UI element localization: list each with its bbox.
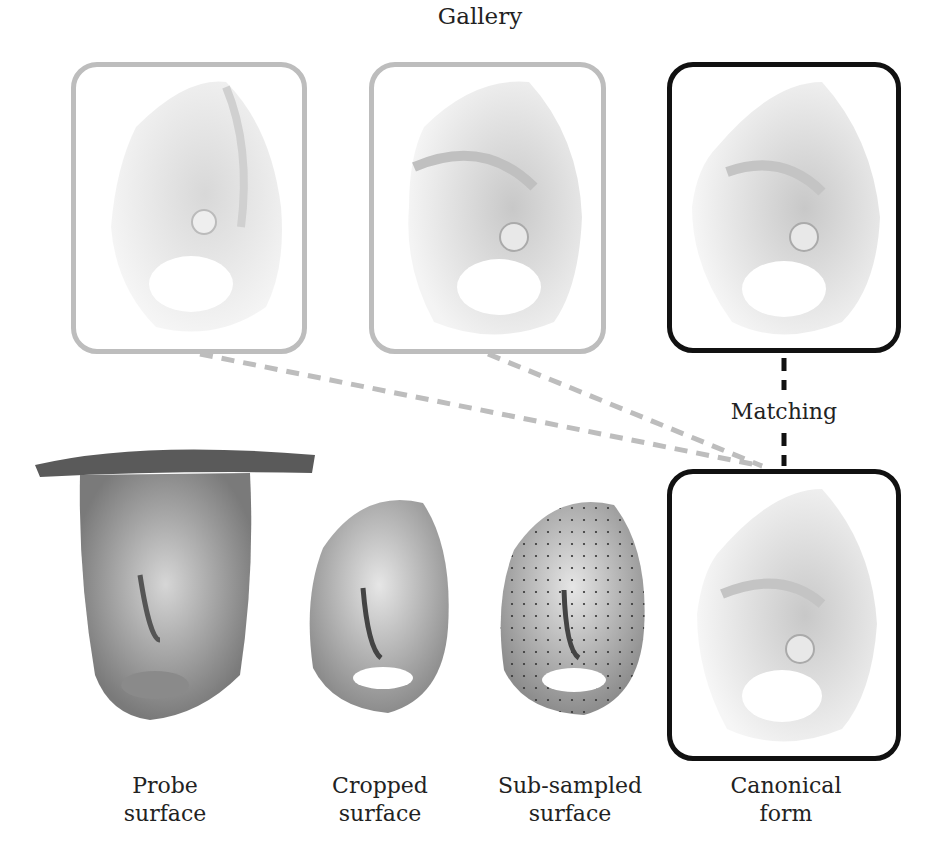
cropped-surface-image (303, 488, 453, 728)
canonical-form-image (672, 474, 896, 756)
probe-surface-label: Probe surface (100, 772, 230, 828)
sub-sampled-surface-image (494, 490, 654, 740)
matching-label: Matching (714, 398, 854, 426)
canonical-form-box (667, 469, 901, 761)
sub-sampled-surface-label: Sub-sampled surface (490, 772, 650, 828)
cropped-surface-label: Cropped surface (315, 772, 445, 828)
canonical-form-label: Canonical form (716, 772, 856, 828)
